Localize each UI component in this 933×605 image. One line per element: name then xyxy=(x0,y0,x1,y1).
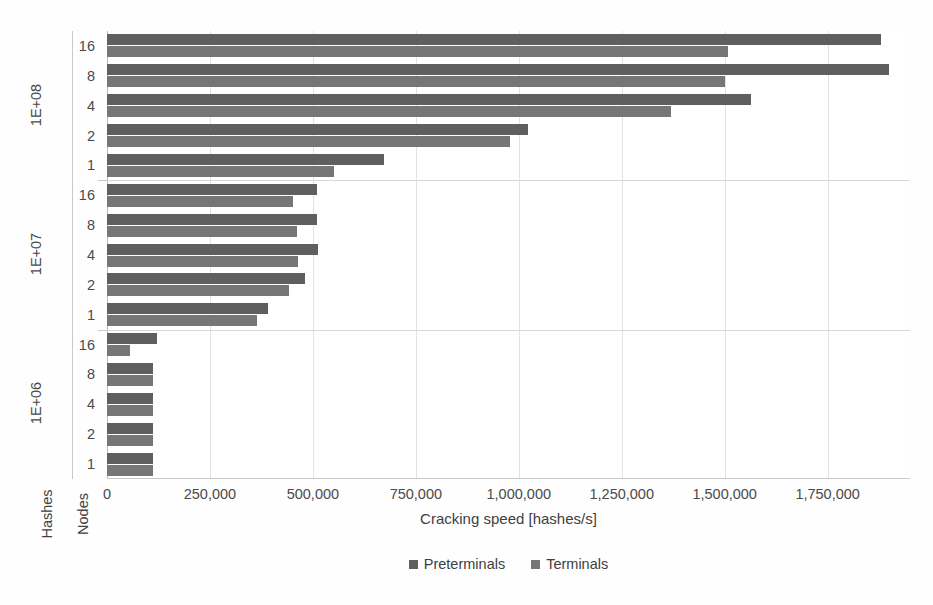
bar-preterminals xyxy=(107,423,153,434)
bar-preterminals xyxy=(107,244,318,255)
node-tick-label: 1 xyxy=(35,158,95,173)
legend-item-label: Preterminals xyxy=(424,556,505,572)
group-label-text: 1E+08 xyxy=(28,83,44,125)
bar-terminals xyxy=(107,136,510,147)
node-tick-label: 2 xyxy=(35,278,95,293)
bar-terminals xyxy=(107,375,153,386)
legend-item-label: Terminals xyxy=(546,556,608,572)
x-tick-label: 250,000 xyxy=(184,486,236,502)
x-tick-label: 1,750,000 xyxy=(795,486,860,502)
bar-terminals xyxy=(107,106,671,117)
bar-terminals xyxy=(107,226,297,237)
bar-terminals xyxy=(107,405,153,416)
x-tick-label: 1,000,000 xyxy=(487,486,552,502)
node-tick-label: 16 xyxy=(35,338,95,353)
bars-layer xyxy=(107,31,910,479)
legend-item[interactable]: Terminals xyxy=(531,556,608,572)
hashes-axis-title: Hashes xyxy=(22,506,46,522)
x-tick-label: 1,500,000 xyxy=(692,486,757,502)
x-tick-label: 0 xyxy=(103,486,111,502)
bar-preterminals xyxy=(107,393,153,404)
nodes-axis-title: Nodes xyxy=(62,506,86,522)
x-tick-label: 750,000 xyxy=(390,486,442,502)
node-tick-label: 8 xyxy=(35,218,95,233)
value-axis-ticks: 0250,000500,000750,0001,000,0001,250,000… xyxy=(0,486,933,508)
bar-terminals xyxy=(107,166,334,177)
category-axis: 1684211E+081684211E+071684211E+06 xyxy=(0,31,107,479)
bar-preterminals xyxy=(107,273,305,284)
bar-preterminals xyxy=(107,124,528,135)
bar-preterminals xyxy=(107,184,317,195)
plot-area xyxy=(107,31,910,479)
group-label: 1E+07 xyxy=(0,246,72,262)
x-tick-label: 1,250,000 xyxy=(589,486,654,502)
group-axis-divider xyxy=(72,31,73,180)
node-tick-label: 16 xyxy=(35,39,95,54)
x-axis-title: Cracking speed [hashes/s] xyxy=(107,510,910,527)
nodes-axis-title-text: Nodes xyxy=(75,493,91,535)
bar-terminals xyxy=(107,46,728,57)
group-axis-divider xyxy=(72,180,73,329)
bar-terminals xyxy=(107,465,153,476)
group-axis-divider xyxy=(72,330,73,479)
node-tick-label: 2 xyxy=(35,427,95,442)
group-tick xyxy=(98,180,107,181)
bar-preterminals xyxy=(107,94,751,105)
bar-preterminals xyxy=(107,303,268,314)
legend-swatch-icon xyxy=(531,560,540,569)
group-label-text: 1E+07 xyxy=(28,233,44,275)
bar-chart: 1684211E+081684211E+071684211E+06 0250,0… xyxy=(0,0,933,605)
node-tick-label: 1 xyxy=(35,457,95,472)
bar-terminals xyxy=(107,256,298,267)
bar-preterminals xyxy=(107,64,889,75)
x-tick-label: 500,000 xyxy=(287,486,339,502)
bar-terminals xyxy=(107,435,153,446)
bar-terminals xyxy=(107,196,293,207)
node-tick-label: 1 xyxy=(35,308,95,323)
bar-terminals xyxy=(107,345,130,356)
legend-item[interactable]: Preterminals xyxy=(409,556,505,572)
bar-preterminals xyxy=(107,333,157,344)
hashes-axis-title-text: Hashes xyxy=(39,489,55,538)
group-label: 1E+06 xyxy=(0,395,72,411)
legend-swatch-icon xyxy=(409,560,418,569)
chart-legend: PreterminalsTerminals xyxy=(107,556,910,572)
group-tick xyxy=(98,330,107,331)
bar-terminals xyxy=(107,76,725,87)
bar-terminals xyxy=(107,285,289,296)
group-label-text: 1E+06 xyxy=(28,382,44,424)
node-tick-label: 8 xyxy=(35,69,95,84)
node-tick-label: 8 xyxy=(35,367,95,382)
bar-preterminals xyxy=(107,363,153,374)
bar-preterminals xyxy=(107,154,384,165)
bar-preterminals xyxy=(107,214,317,225)
node-tick-label: 2 xyxy=(35,129,95,144)
bar-preterminals xyxy=(107,34,881,45)
bar-preterminals xyxy=(107,453,153,464)
group-label: 1E+08 xyxy=(0,97,72,113)
bar-terminals xyxy=(107,315,257,326)
node-tick-label: 16 xyxy=(35,188,95,203)
